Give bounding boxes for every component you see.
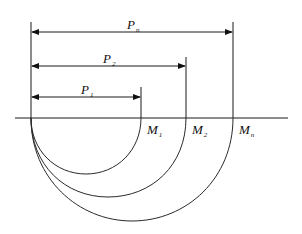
label-p1: P1 xyxy=(80,82,93,99)
semicircle-diagram: Pn P2 P1 M1 M2 Mn xyxy=(0,0,302,234)
label-pn: Pn xyxy=(126,17,140,34)
label-m2: M2 xyxy=(191,122,208,139)
label-m1: M1 xyxy=(146,122,162,139)
arc-2 xyxy=(31,118,186,197)
label-mn: Mn xyxy=(238,122,255,139)
arc-1 xyxy=(31,118,141,174)
label-p2: P2 xyxy=(102,51,116,68)
